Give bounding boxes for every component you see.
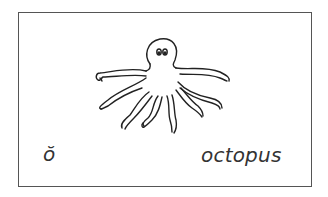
phonetic-letter: ŏ <box>43 142 55 166</box>
octopus-icon <box>0 0 328 197</box>
vocabulary-word: octopus <box>201 143 282 167</box>
